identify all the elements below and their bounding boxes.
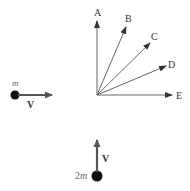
- mass-symbol: m: [80, 170, 87, 181]
- choice-label-d: D: [168, 60, 175, 70]
- particle-m-velocity-label: V: [27, 100, 34, 110]
- choice-label-c: C: [151, 32, 158, 42]
- vector-c-arrow-icon: [97, 43, 150, 95]
- choice-label-b: B: [125, 14, 132, 24]
- particle-m-mass-label: m: [12, 79, 19, 88]
- particle-2m-mass-label: 2m: [75, 171, 87, 181]
- choice-label-a: A: [94, 8, 101, 18]
- diagram-canvas: [0, 0, 190, 191]
- choice-label-e: E: [176, 91, 182, 101]
- particle-2m-velocity-label: V: [102, 154, 109, 164]
- particle-2m-ball-icon: [92, 171, 103, 182]
- choice-vectors: [97, 21, 172, 95]
